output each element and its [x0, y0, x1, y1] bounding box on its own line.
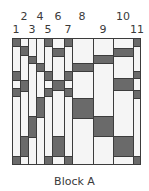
column-8-light-patch [72, 38, 94, 64]
column-10-light-patch [113, 90, 134, 137]
column-9-light-patch [93, 63, 114, 117]
column-label-7: 7 [61, 24, 75, 35]
column-label-3: 3 [25, 24, 39, 35]
column-10-light-patch [113, 156, 134, 165]
column-9-dark-patch [93, 116, 114, 137]
column-9-light-patch [93, 136, 114, 165]
column-label-8: 8 [75, 11, 89, 22]
column-label-1: 1 [9, 24, 23, 35]
column-9-light-patch [93, 38, 114, 56]
column-label-2: 2 [17, 11, 31, 22]
column-label-6: 6 [51, 11, 65, 22]
column-label-5: 5 [41, 24, 55, 35]
column-10-dark-patch [113, 136, 134, 157]
quilt-block-diagram [12, 38, 140, 164]
column-8-light-patch [72, 118, 94, 165]
column-8-light-patch [72, 71, 94, 99]
column-8-dark-patch [72, 98, 94, 119]
column-label-9: 9 [96, 24, 110, 35]
column-11-light-patch [133, 46, 141, 72]
column-11-light-patch [133, 98, 141, 157]
column-11-dark-patch [133, 156, 141, 165]
column-label-4: 4 [33, 11, 47, 22]
column-label-10: 10 [116, 11, 130, 22]
column-label-11: 11 [130, 24, 144, 35]
column-10-light-patch [113, 56, 134, 79]
block-caption: Block A [0, 175, 149, 188]
